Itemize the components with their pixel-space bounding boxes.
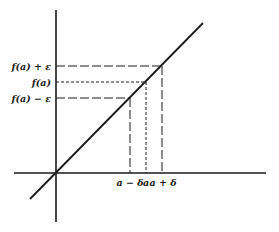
epsilon-delta-diagram: f(a) + ε f(a) f(a) − ε a − δ a a + δ [0, 0, 279, 232]
background [0, 0, 279, 232]
label-a-plus-delta: a + δ [149, 177, 176, 188]
label-a: a [143, 177, 149, 188]
label-fa-minus-eps: f(a) − ε [10, 93, 51, 104]
label-fa: f(a) [31, 77, 51, 88]
label-a-minus-delta: a − δ [116, 177, 143, 188]
label-fa-plus-eps: f(a) + ε [10, 61, 51, 72]
